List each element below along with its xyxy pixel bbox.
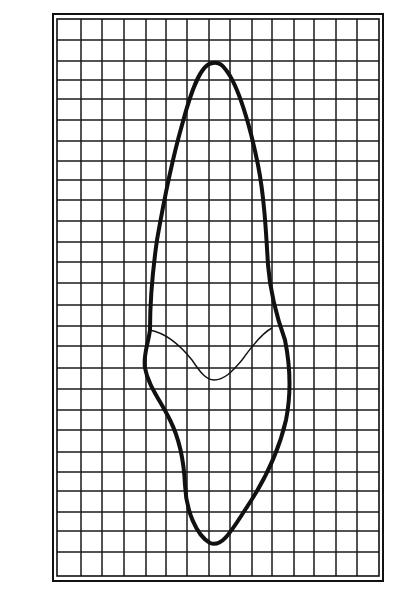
tooth-diagram [0,0,396,605]
